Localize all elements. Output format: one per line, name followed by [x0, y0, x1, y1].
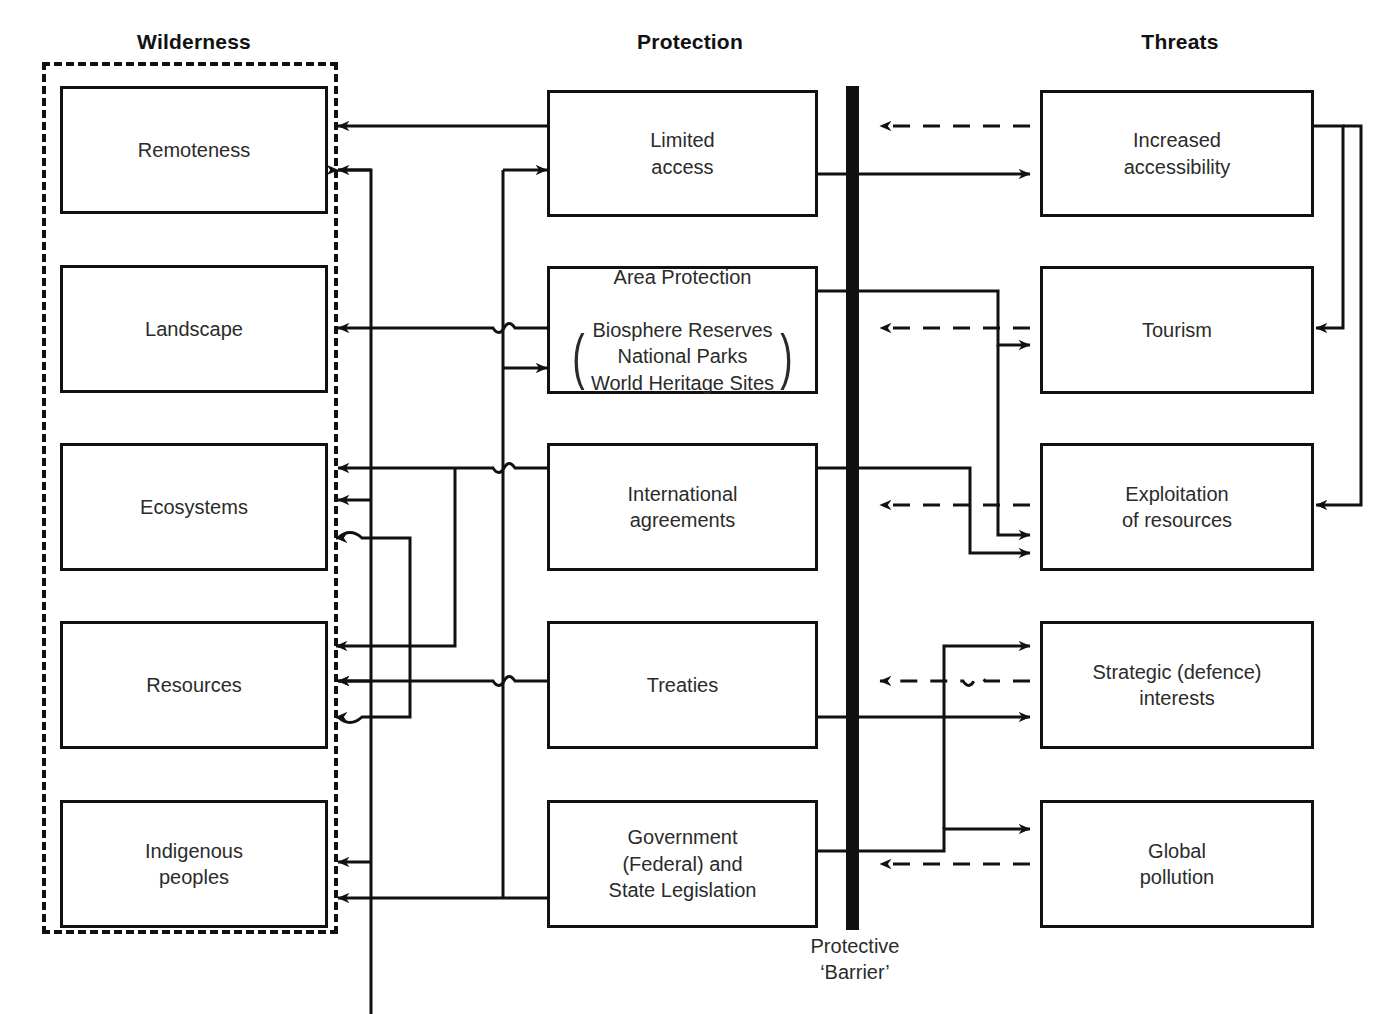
node-exploitation-of-resources[interactable]: Exploitation of resources — [1040, 443, 1314, 571]
node-limited-access[interactable]: Limited access — [547, 90, 818, 217]
node-landscape[interactable]: Landscape — [60, 265, 328, 393]
threat-link-strategic-interests-blocked — [880, 677, 1030, 686]
link-increased-accessibility-to-tourism — [1314, 126, 1343, 328]
node-resources[interactable]: Resources — [60, 621, 328, 749]
node-ecosystems[interactable]: Ecosystems — [60, 443, 328, 571]
node-indigenous-peoples-label: Indigenous peoples — [139, 838, 249, 891]
node-strategic-defence-interests[interactable]: Strategic (defence) interests — [1040, 621, 1314, 749]
link-resources-first-riser — [338, 468, 455, 646]
node-treaties[interactable]: Treaties — [547, 621, 818, 749]
protective-barrier-caption: Protective ‘Barrier’ — [811, 933, 900, 985]
node-international-agreements-label: International agreements — [621, 481, 743, 534]
node-resources-label: Resources — [140, 672, 248, 698]
riser-wilderness-long-left — [338, 170, 371, 1014]
node-exploitation-of-resources-label: Exploitation of resources — [1116, 481, 1238, 534]
node-tourism-label: Tourism — [1136, 317, 1218, 343]
node-strategic-defence-interests-label: Strategic (defence) interests — [1087, 659, 1268, 712]
node-government-legislation-label: Government (Federal) and State Legislati… — [603, 824, 763, 903]
node-ecosystems-label: Ecosystems — [134, 494, 254, 520]
node-landscape-label: Landscape — [139, 316, 249, 342]
node-area-protection-title: Area Protection — [568, 264, 796, 290]
node-treaties-label: Treaties — [641, 672, 725, 698]
group-bracket-right-icon: ) — [780, 332, 792, 380]
link-internal-ecosystems-resources-loop — [338, 533, 410, 723]
node-remoteness-label: Remoteness — [132, 137, 256, 163]
link-government-to-strategic-interests — [944, 646, 1030, 829]
diagram-page: Wilderness Protection Threats — [0, 0, 1389, 1014]
group-bracket-left-icon: ( — [572, 332, 584, 380]
node-limited-access-label: Limited access — [644, 127, 720, 180]
node-indigenous-peoples[interactable]: Indigenous peoples — [60, 800, 328, 928]
node-remoteness[interactable]: Remoteness — [60, 86, 328, 214]
node-area-protection[interactable]: Area Protection ( Biosphere Reserves Nat… — [547, 266, 818, 394]
protective-barrier — [846, 86, 859, 930]
node-government-legislation[interactable]: Government (Federal) and State Legislati… — [547, 800, 818, 928]
node-increased-accessibility-label: Increased accessibility — [1118, 127, 1237, 180]
node-global-pollution-label: Global pollution — [1134, 838, 1221, 891]
node-area-protection-content: Area Protection ( Biosphere Reserves Nat… — [562, 238, 802, 423]
node-increased-accessibility[interactable]: Increased accessibility — [1040, 90, 1314, 217]
link-international-agreements-to-ecosystems — [338, 464, 547, 473]
node-tourism[interactable]: Tourism — [1040, 266, 1314, 394]
link-increased-accessibility-to-exploitation — [1316, 126, 1361, 505]
node-global-pollution[interactable]: Global pollution — [1040, 800, 1314, 928]
node-area-protection-items: Biosphere Reserves National Parks World … — [589, 317, 776, 396]
node-international-agreements[interactable]: International agreements — [547, 443, 818, 571]
link-area-protection-to-landscape — [338, 324, 547, 333]
